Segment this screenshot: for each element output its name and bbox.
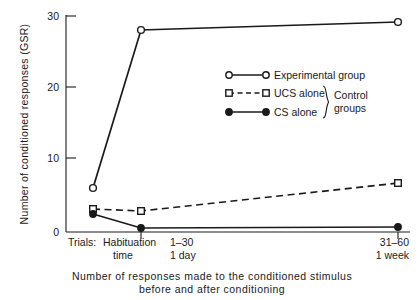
y-tick-label-0: 0	[53, 226, 59, 238]
legend-marker-open-circle-right	[263, 72, 269, 78]
legend-label-ucs-alone: UCS alone	[274, 87, 325, 99]
data-point-cs-31-60	[395, 224, 401, 230]
data-point-cs-1-30	[138, 225, 144, 231]
data-point-experimental-31-60	[395, 19, 402, 26]
legend-marker-filled-circle-right	[263, 109, 269, 115]
chart-figure: 30 20 10 0 Number of conditioned respons…	[0, 0, 419, 300]
data-point-experimental-1-30	[138, 27, 145, 34]
y-axis-title: Number of conditioned responses (GSR)	[18, 24, 30, 225]
x-category-2-line1: 1–30	[170, 236, 194, 248]
x-axis-prefix-label: Trials:	[68, 236, 96, 248]
legend-label-cs-alone: CS alone	[274, 106, 317, 118]
legend-marker-open-circle-left	[226, 72, 232, 78]
gsr-conditioning-line-chart: 30 20 10 0 Number of conditioned respons…	[0, 0, 419, 300]
legend-marker-filled-circle-left	[226, 109, 232, 115]
legend-entry-ucs-alone: UCS alone	[226, 87, 325, 99]
y-tick-label-30: 30	[47, 10, 59, 22]
legend-label-experimental-group: Experimental group	[274, 69, 365, 81]
y-tick-label-10: 10	[47, 152, 59, 164]
brace-label-line2: groups	[334, 102, 366, 114]
legend-entry-experimental-group: Experimental group	[226, 69, 365, 81]
data-point-ucs-31-60	[395, 180, 402, 187]
x-category-2-line2: 1 day	[170, 249, 196, 261]
data-point-ucs-1-30	[138, 208, 145, 215]
y-tick-label-20: 20	[47, 81, 59, 93]
x-category-1-line1: Habituation	[103, 236, 156, 248]
series-line-ucs-alone	[93, 183, 398, 211]
x-category-1-line2: time	[113, 249, 133, 261]
caption-line-1: Number of responses made to the conditio…	[72, 270, 352, 282]
brace-label-line1: Control	[334, 89, 368, 101]
caption-line-2: before and after conditioning	[139, 283, 285, 295]
legend-entry-cs-alone: CS alone	[226, 106, 318, 118]
legend-marker-open-square-left	[226, 90, 232, 96]
x-category-3-line1: 31–60	[380, 236, 409, 248]
legend-marker-open-square-right	[263, 90, 269, 96]
x-category-3-line2: 1 week	[376, 249, 410, 261]
data-point-experimental-habituation	[90, 185, 97, 192]
data-point-cs-habituation	[90, 211, 96, 217]
